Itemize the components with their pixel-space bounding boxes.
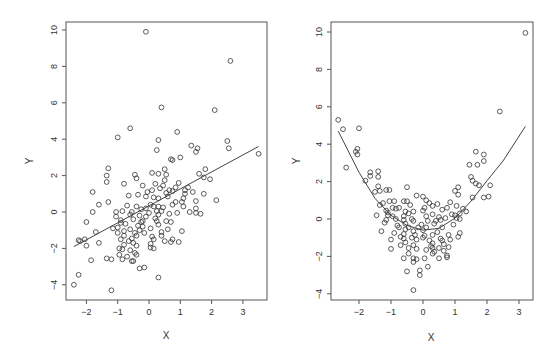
y-tick-label: 8 [314,67,324,72]
x-tick-label: 0 [420,307,425,317]
y-axis-label-right: Y [291,157,302,164]
data-point [376,169,381,174]
data-points-right [336,31,528,293]
data-point [405,185,410,190]
data-point [336,118,341,123]
y-tick-label: −4 [314,289,324,299]
data-point [438,218,443,223]
y-tick-label: 4 [314,142,324,147]
data-point [473,149,478,154]
data-point [433,219,438,224]
data-point [424,214,429,219]
data-point [376,184,381,189]
data-point [430,212,435,217]
data-point [417,273,422,278]
data-point [435,202,440,207]
data-point [445,205,450,210]
x-tick-label: −1 [386,307,396,317]
data-point [422,256,427,261]
data-point [392,231,397,236]
data-point [446,245,451,250]
data-point [344,165,349,170]
data-point [481,159,486,164]
data-point [437,256,442,261]
data-point [393,206,398,211]
data-point [424,198,429,203]
data-point [353,149,358,154]
data-point [481,152,486,157]
data-point [373,190,378,195]
data-point [425,264,430,269]
x-axis-label-right: X [428,332,435,343]
data-point [437,246,442,251]
data-point [430,204,435,209]
y-tick-label: 6 [314,104,324,109]
figure: −2−10123 −4−20246810 X Y −2−10123 −4−202… [0,0,559,359]
data-point [389,237,394,242]
data-point [430,241,435,246]
data-point [425,219,430,224]
data-point [414,247,419,252]
data-point [409,235,414,240]
x-tick-label: 2 [484,307,489,317]
data-point [406,246,411,251]
data-point [384,188,389,193]
x-tick-label: 1 [452,307,457,317]
data-point [432,221,437,226]
data-point [408,203,413,208]
data-point [414,257,419,262]
y-tick-label: −2 [314,251,324,261]
data-point [448,200,453,205]
data-point [414,193,419,198]
data-point [419,222,424,227]
data-point [467,162,472,167]
x-tick-label: 3 [516,307,521,317]
data-point [390,205,395,210]
x-tick-label: −2 [354,307,364,317]
data-point [374,213,379,218]
data-point [464,209,469,214]
data-point [401,232,406,237]
data-point [398,243,403,248]
data-point [486,194,491,199]
data-point [341,127,346,132]
data-point [355,147,360,152]
data-point [457,217,462,222]
data-point [406,251,411,256]
data-point [389,247,394,252]
data-point [454,204,459,209]
data-point [488,183,493,188]
data-point [414,237,419,242]
y-tick-label: 2 [314,179,324,184]
data-point [392,199,397,204]
data-point [397,205,402,210]
data-point [427,238,432,243]
data-point [435,230,440,235]
data-point [384,218,389,223]
data-point [475,162,480,167]
data-point [441,248,446,253]
data-point [411,209,416,214]
data-point [440,207,445,212]
data-point [422,205,427,210]
data-point [424,225,429,230]
data-point [497,109,502,114]
data-point [355,152,360,157]
data-point [417,268,422,273]
data-point [446,233,451,238]
data-point [443,216,448,221]
y-tick-label: 0 [314,216,324,221]
data-point [411,288,416,293]
y-axis-right: −4−20246810 [314,27,331,299]
data-point [449,212,454,217]
data-point [421,208,426,213]
data-point [448,237,453,242]
data-point [427,201,432,206]
scatter-plot-quadratic-fit: −2−10123 −4−20246810 X Y [0,0,559,359]
data-point [377,189,382,194]
data-point [376,175,381,180]
data-point [523,31,528,36]
data-point [387,199,392,204]
data-point [481,195,486,200]
data-point [461,206,466,211]
